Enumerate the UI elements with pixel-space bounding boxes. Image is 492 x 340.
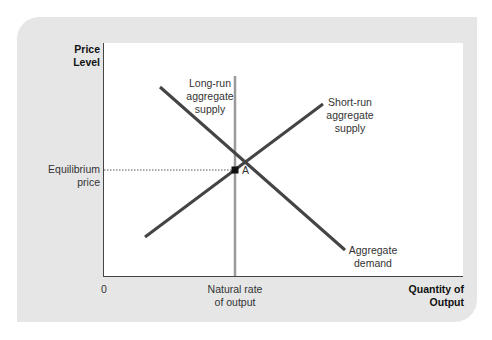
lras-label-line1: Long-run bbox=[180, 77, 240, 90]
equilibrium-price-tick: Equilibrium price bbox=[40, 163, 100, 189]
ad-label-line2: demand bbox=[343, 257, 403, 270]
ad-label: Aggregate demand bbox=[343, 244, 403, 270]
sras-label: Short-run aggregate supply bbox=[320, 96, 380, 135]
sras-label-line1: Short-run bbox=[320, 96, 380, 109]
lras-label: Long-run aggregate supply bbox=[180, 77, 240, 116]
sras-label-line3: supply bbox=[320, 122, 380, 135]
y-axis-label: Price Level bbox=[60, 43, 100, 69]
natural-rate-line1: Natural rate bbox=[195, 283, 275, 296]
origin-label: 0 bbox=[98, 283, 110, 296]
natural-rate-line2: of output bbox=[195, 296, 275, 309]
x-axis-label: Quantity of Output bbox=[392, 283, 464, 309]
natural-rate-tick: Natural rate of output bbox=[195, 283, 275, 309]
x-axis-label-line2: Output bbox=[392, 296, 464, 309]
lras-label-line2: aggregate bbox=[180, 90, 240, 103]
y-axis-label-line1: Price bbox=[60, 43, 100, 56]
eq-price-line1: Equilibrium bbox=[40, 163, 100, 176]
eq-price-line2: price bbox=[40, 176, 100, 189]
point-a-label: A bbox=[242, 164, 252, 177]
lras-label-line3: supply bbox=[180, 103, 240, 116]
equilibrium-point-marker bbox=[232, 167, 239, 174]
sras-label-line2: aggregate bbox=[320, 109, 380, 122]
ad-label-line1: Aggregate bbox=[343, 244, 403, 257]
y-axis-label-line2: Level bbox=[60, 56, 100, 69]
x-axis-label-line1: Quantity of bbox=[392, 283, 464, 296]
